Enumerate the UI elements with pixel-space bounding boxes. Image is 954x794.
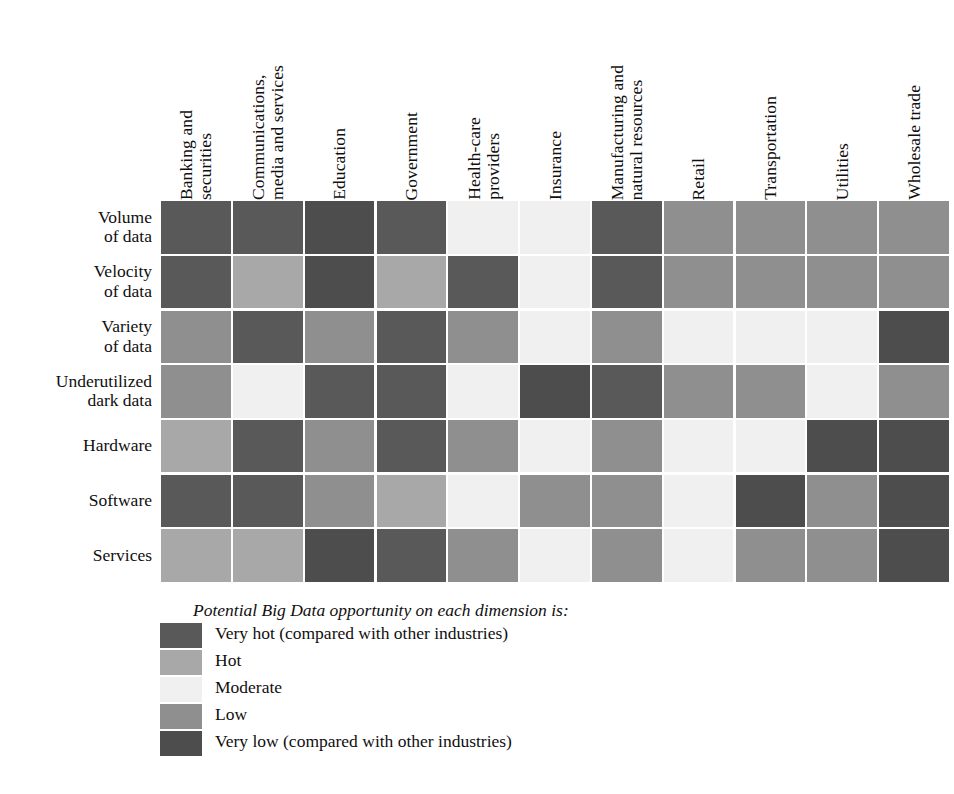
legend-color-swatch [160,704,202,729]
heatmap-cell [664,365,734,418]
row-header-label: Volume of data [0,208,152,247]
heatmap-cell [161,311,231,364]
heatmap-cell [736,420,806,473]
legend-color-swatch [160,650,202,675]
heatmap-cell [664,529,734,582]
legend-item-label: Low [215,705,247,724]
legend-title: Potential Big Data opportunity on each d… [193,600,569,621]
heatmap-cell [161,420,231,473]
heatmap-cell [664,256,734,309]
heatmap-cell [520,529,590,582]
heatmap-cell [377,529,447,582]
heatmap-cell [879,475,949,528]
row-label-column: Volume of dataVelocity of dataVariety of… [0,200,152,583]
column-header: Communications, media and services [232,22,304,200]
column-header: Manufacturing and natural resources [591,22,663,200]
column-header-label: Communications, media and services [249,65,286,200]
heatmap-cell [520,311,590,364]
legend-color-swatch [160,731,202,756]
heatmap-cell [233,529,303,582]
heatmap-cell [879,201,949,254]
row-header-label: Underutilized dark data [0,372,152,411]
heatmap-cell [161,365,231,418]
big-data-opportunity-heatmap-figure: Banking and securitiesCommunications, me… [0,0,954,794]
heatmap-cell [377,365,447,418]
heatmap-cell [736,311,806,364]
column-header-label: Wholesale trade [905,85,924,200]
heatmap-cell [879,311,949,364]
heatmap-cell [807,475,877,528]
heatmap-cell [592,420,662,473]
row-header-label: Services [0,546,152,566]
heatmap-cell [377,311,447,364]
legend-color-swatch [160,623,202,648]
heatmap-cell [592,475,662,528]
heatmap-cell [736,365,806,418]
column-header: Education [304,22,376,200]
heatmap-cell [305,529,375,582]
heatmap-cell [448,365,518,418]
heatmap-cell [736,475,806,528]
heatmap-cell [592,529,662,582]
heatmap-grid [160,200,950,583]
heatmap-cell [879,365,949,418]
heatmap-cell [305,201,375,254]
column-header: Retail [663,22,735,200]
heatmap-cell [664,201,734,254]
heatmap-cell [161,529,231,582]
row-header-label: Hardware [0,436,152,456]
heatmap-cell [448,529,518,582]
heatmap-cell [520,201,590,254]
column-header-label: Health-care providers [465,117,502,200]
heatmap-cell [879,420,949,473]
column-header-label: Manufacturing and natural resources [608,65,645,200]
column-header-band: Banking and securitiesCommunications, me… [160,22,950,200]
heatmap-cell [592,365,662,418]
heatmap-cell [377,256,447,309]
column-header-label: Government [402,112,421,200]
heatmap-cell [520,475,590,528]
column-header: Transportation [735,22,807,200]
column-header-label: Education [330,128,349,200]
heatmap-cell [305,256,375,309]
heatmap-cell [520,365,590,418]
row-header-label: Software [0,491,152,511]
legend-item-label: Hot [215,651,241,670]
column-header: Wholesale trade [878,22,950,200]
heatmap-cell [664,420,734,473]
heatmap-cell [233,256,303,309]
heatmap-cell [807,420,877,473]
heatmap-cell [233,475,303,528]
column-header: Banking and securities [160,22,232,200]
heatmap-cell [448,420,518,473]
heatmap-cell [377,201,447,254]
column-header-label: Utilities [833,143,852,200]
row-header-label: Variety of data [0,317,152,356]
heatmap-cell [448,201,518,254]
heatmap-cell [448,475,518,528]
heatmap-cell [664,475,734,528]
heatmap-cell [592,201,662,254]
heatmap-cell [305,475,375,528]
heatmap-cell [448,311,518,364]
heatmap-cell [736,529,806,582]
legend-item-label: Very low (compared with other industries… [215,732,512,751]
heatmap-cell [233,365,303,418]
heatmap-cell [807,201,877,254]
legend-color-swatch [160,677,202,702]
heatmap-cell [807,256,877,309]
column-header: Utilities [806,22,878,200]
heatmap-cell [807,365,877,418]
heatmap-cell [592,311,662,364]
heatmap-cell [161,201,231,254]
column-header-label: Insurance [546,131,565,200]
heatmap-cell [305,311,375,364]
heatmap-cell [592,256,662,309]
row-header-label: Velocity of data [0,262,152,301]
heatmap-cell [736,256,806,309]
column-header: Health-care providers [447,22,519,200]
heatmap-cell [377,475,447,528]
heatmap-cell [233,201,303,254]
heatmap-cell [520,256,590,309]
column-header-label: Banking and securities [177,110,214,200]
